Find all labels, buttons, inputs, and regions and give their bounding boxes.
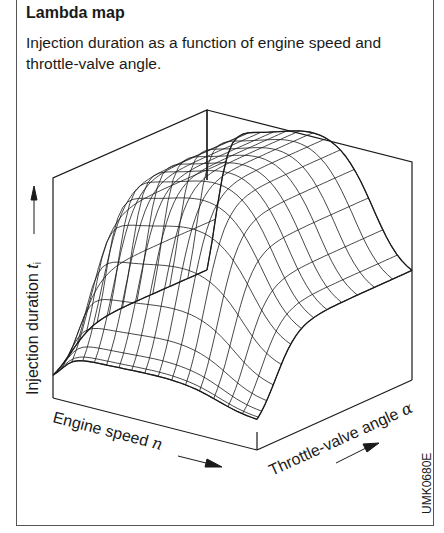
mesh-line bbox=[188, 140, 393, 280]
mesh-line bbox=[257, 270, 412, 419]
mesh-line bbox=[53, 270, 207, 375]
mesh-line bbox=[200, 169, 355, 391]
y-axis-symbol: α bbox=[398, 398, 416, 420]
mesh-line bbox=[54, 357, 258, 417]
y-axis-label: Throttle-valve angle α bbox=[266, 398, 416, 480]
x-axis-arrow-icon bbox=[178, 456, 222, 467]
mesh-line bbox=[63, 329, 267, 401]
mesh-line bbox=[97, 198, 301, 329]
mesh-line bbox=[214, 198, 369, 399]
mesh-line bbox=[242, 255, 397, 414]
svg-text:Injection duration: Injection duration ti bbox=[24, 262, 43, 395]
left-wall bbox=[53, 110, 207, 398]
x-axis-label: Engine speed n bbox=[51, 407, 165, 454]
mesh-line bbox=[228, 230, 383, 407]
right-wall bbox=[207, 110, 412, 380]
mesh-line bbox=[207, 131, 412, 271]
x-axis-symbol: n bbox=[150, 433, 165, 454]
box-walls bbox=[53, 110, 412, 398]
z-axis-subscript: i bbox=[32, 262, 43, 264]
mesh-line bbox=[69, 300, 273, 385]
mesh-line bbox=[53, 361, 257, 420]
mesh-line bbox=[145, 131, 300, 373]
mesh-line bbox=[58, 347, 262, 411]
z-axis-text: Injection duration bbox=[24, 273, 41, 395]
mesh-line bbox=[53, 270, 207, 375]
svg-text:Throttle-valve angle: Throttle-valve angle α bbox=[266, 398, 416, 480]
mesh-line bbox=[257, 270, 412, 419]
x-axis-text: Engine speed bbox=[51, 408, 150, 449]
mesh-line bbox=[137, 163, 342, 303]
mesh-line bbox=[153, 155, 358, 295]
z-axis-label: Injection duration ti bbox=[24, 262, 43, 395]
z-axis-arrow-icon bbox=[31, 186, 37, 234]
mesh-line bbox=[53, 361, 257, 420]
mesh-line bbox=[207, 131, 412, 271]
lambda-map-diagram: Injection duration ti Engine speed n Thr… bbox=[0, 0, 444, 533]
figure-code: UMK0680E bbox=[420, 453, 434, 514]
mesh-line bbox=[72, 161, 226, 362]
mesh-line bbox=[123, 171, 328, 310]
surface-mesh bbox=[53, 131, 412, 419]
svg-text:Engine speed n: Engine speed n bbox=[51, 407, 165, 454]
mesh-line bbox=[170, 148, 375, 288]
svg-text:UMK0680E: UMK0680E bbox=[420, 453, 434, 514]
